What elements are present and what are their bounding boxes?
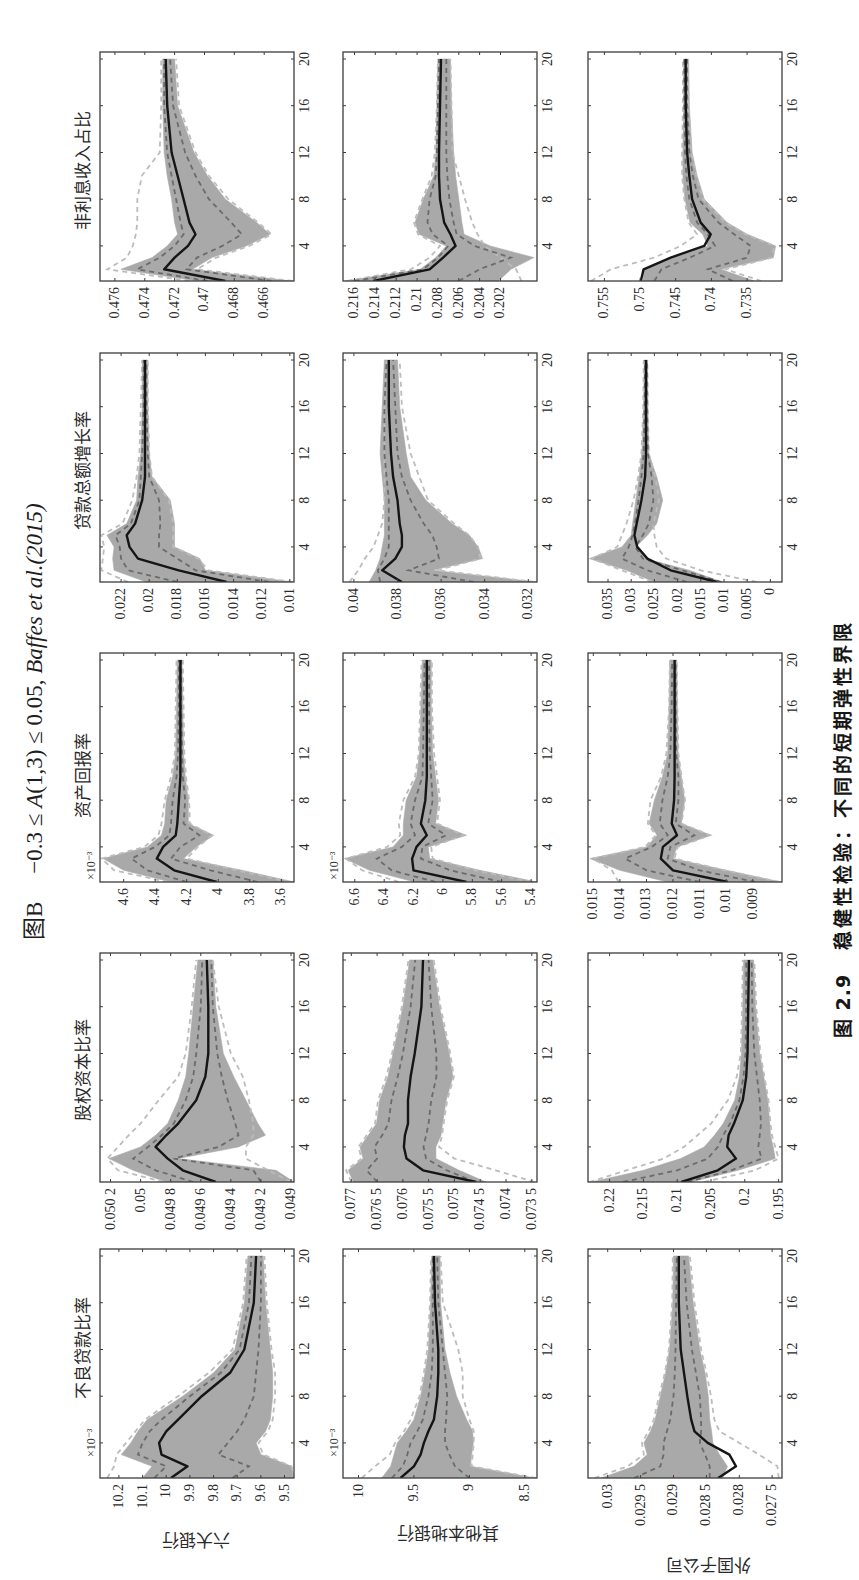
y-tick-label: 0.009	[745, 888, 761, 952]
y-tick-label: 0.755	[596, 287, 612, 351]
y-tick-label: 0.04	[346, 588, 362, 652]
y-tick-label: 0.005	[739, 588, 755, 652]
y-tick-label: 0.028	[731, 1484, 747, 1548]
x-tick-label: 16	[785, 1288, 801, 1318]
y-tick-label: 0.745	[668, 287, 684, 351]
y-tick-label: 0.025	[646, 588, 662, 652]
y-tick-label: 0.22	[602, 1188, 618, 1252]
x-tick-label: 4	[785, 1428, 801, 1458]
column-title-loan-growth: 贷款总额增长率	[73, 360, 93, 580]
column-title-npl-ratio: 不良贷款比率	[73, 1238, 93, 1458]
y-tick-label: 0.2	[737, 1188, 753, 1252]
x-tick-label: 12	[785, 738, 801, 768]
y-tick-label: 0.027 5	[764, 1484, 780, 1548]
y-tick-label: 0.472	[167, 287, 183, 351]
y-tick-label: 0.011	[692, 888, 708, 952]
y-tick-label: 0.016	[197, 588, 213, 652]
y-tick-label: 5.8	[464, 888, 480, 952]
y-tick-label: 0.214	[367, 287, 383, 351]
y-tick-label: 0.028 5	[698, 1484, 714, 1548]
y-tick-label: 0.049 4	[223, 1188, 239, 1252]
exponent-label: ×10⁻³	[326, 1429, 342, 1457]
x-tick-label: 4	[540, 231, 556, 261]
x-tick-label: 20	[785, 945, 801, 975]
figure-title-lhs: −0.3 ≤	[22, 808, 47, 874]
x-tick-label: 4	[785, 231, 801, 261]
y-tick-label: 9.5	[277, 1484, 293, 1548]
y-tick-label: 0.076 5	[369, 1188, 385, 1252]
x-tick-label: 12	[297, 137, 313, 167]
y-tick-label: 0.01	[718, 888, 734, 952]
x-tick-label: 16	[540, 992, 556, 1022]
y-tick-label: 0.015	[693, 588, 709, 652]
y-tick-label: 0.01	[716, 588, 732, 652]
y-tick-label: 0.01	[282, 588, 298, 652]
figure-title: 图B−0.3 ≤ A(1,3) ≤ 0.05, Baffes et al.(20…	[21, 503, 49, 940]
x-tick-label: 8	[785, 1381, 801, 1411]
x-tick-label: 8	[540, 785, 556, 815]
x-tick-label: 4	[785, 532, 801, 562]
x-tick-label: 16	[297, 392, 313, 422]
y-tick-label: 0.073 5	[524, 1188, 540, 1252]
x-tick-label: 8	[297, 785, 313, 815]
y-tick-label: 0.013	[638, 888, 654, 952]
x-tick-label: 20	[540, 945, 556, 975]
y-tick-label: 0.206	[451, 287, 467, 351]
y-tick-label: 0.21	[409, 287, 425, 351]
y-tick-label: 0.035	[600, 588, 616, 652]
y-tick-label: 0.03	[623, 588, 639, 652]
x-tick-label: 4	[540, 1428, 556, 1458]
y-tick-label: 0.018	[169, 588, 185, 652]
y-tick-label: 0	[762, 588, 778, 652]
y-tick-label: 0.077	[343, 1188, 359, 1252]
y-tick-label: 0.474	[137, 287, 153, 351]
x-tick-label: 20	[540, 345, 556, 375]
y-tick-label: 0.050 2	[103, 1188, 119, 1252]
y-tick-label: 0.03	[600, 1484, 616, 1548]
x-tick-label: 4	[297, 832, 313, 862]
y-tick-label: 0.215	[635, 1188, 651, 1252]
y-tick-label: 0.029 5	[633, 1484, 649, 1548]
column-title-non-interest-income-share: 非利息收入占比	[73, 60, 93, 280]
x-tick-label: 12	[540, 738, 556, 768]
y-tick-label: 3.6	[273, 888, 289, 952]
x-tick-label: 12	[540, 438, 556, 468]
y-tick-label: 0.049 2	[253, 1188, 269, 1252]
y-tick-label: 0.05	[133, 1188, 149, 1252]
figure-title-variable: A	[22, 794, 47, 808]
y-tick-label: 0.074	[498, 1188, 514, 1252]
y-tick-label: 0.204	[472, 287, 488, 351]
x-tick-label: 16	[297, 692, 313, 722]
y-tick-label: 4.6	[116, 888, 132, 952]
y-tick-label: 0.014	[612, 888, 628, 952]
x-tick-label: 4	[785, 832, 801, 862]
y-tick-label: 0.034	[477, 588, 493, 652]
x-tick-label: 12	[297, 738, 313, 768]
x-tick-label: 12	[540, 1038, 556, 1068]
x-tick-label: 4	[540, 1132, 556, 1162]
y-tick-label: 5.4	[523, 888, 539, 952]
x-tick-label: 8	[297, 184, 313, 214]
y-tick-label: 0.216	[346, 287, 362, 351]
x-tick-label: 12	[297, 1038, 313, 1068]
x-tick-label: 8	[785, 485, 801, 515]
y-tick-label: 0.012	[665, 888, 681, 952]
x-tick-label: 8	[297, 1085, 313, 1115]
x-tick-label: 20	[540, 1241, 556, 1271]
y-tick-label: 0.202	[492, 287, 508, 351]
x-tick-label: 12	[785, 438, 801, 468]
y-tick-label: 0.208	[430, 287, 446, 351]
x-tick-label: 4	[297, 532, 313, 562]
x-tick-label: 8	[540, 485, 556, 515]
x-tick-label: 8	[540, 1085, 556, 1115]
x-tick-label: 20	[785, 645, 801, 675]
x-tick-label: 8	[297, 485, 313, 515]
y-tick-label: 0.212	[388, 287, 404, 351]
x-tick-label: 20	[540, 645, 556, 675]
y-tick-label: 0.032	[520, 588, 536, 652]
x-tick-label: 20	[785, 44, 801, 74]
y-tick-label: 0.468	[226, 287, 242, 351]
x-tick-label: 4	[540, 532, 556, 562]
column-title-return-on-assets: 资产回报率	[73, 665, 93, 885]
x-tick-label: 20	[297, 1241, 313, 1271]
